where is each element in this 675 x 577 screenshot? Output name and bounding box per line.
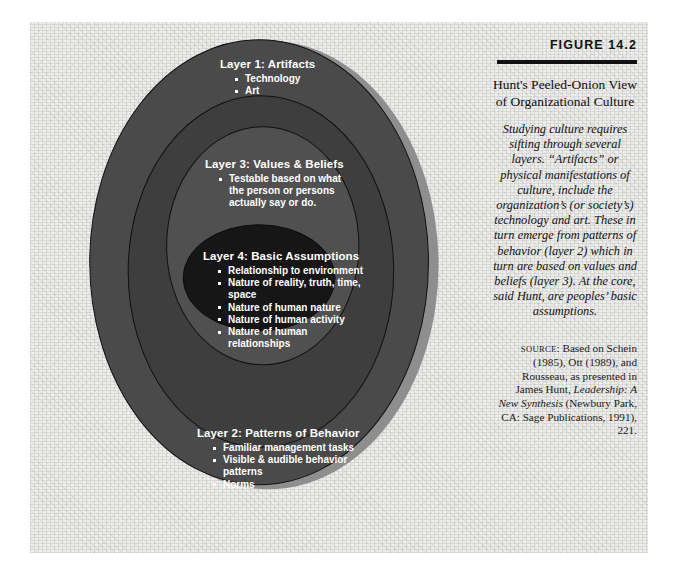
figure-title: Hunt's Peeled-Onion View of Organization… <box>493 77 637 110</box>
figure-source-label: SOURCE <box>521 344 557 354</box>
onion-label-layer2: Layer 2: Patterns of Behavior Familiar m… <box>210 427 360 491</box>
list-item: Visible & audible behavior patterns <box>210 454 358 478</box>
onion-label-layer4-items: Relationship to environment Nature of re… <box>215 265 370 350</box>
figure-caption-column: FIGURE 14.2 Hunt's Peeled-Onion View of … <box>493 38 637 438</box>
onion-label-layer3-title: Layer 3: Values & Beliefs <box>205 158 349 170</box>
onion-label-layer3: Layer 3: Values & Beliefs Testable based… <box>216 158 349 210</box>
figure-source: SOURCE: Based on Schein (1985), Ott (198… <box>493 342 637 438</box>
onion-label-layer4: Layer 4: Basic Assumptions Relationship … <box>215 250 370 350</box>
figure-page: Layer 1: Artifacts Technology Art Layer … <box>0 0 675 577</box>
list-item: Relationship to environment <box>215 265 370 277</box>
onion-label-layer2-title: Layer 2: Patterns of Behavior <box>197 427 360 439</box>
list-item: Nature of human nature <box>215 302 370 314</box>
list-item: Norms <box>210 479 360 491</box>
list-item: Technology <box>232 73 315 85</box>
onion-label-layer1-title: Layer 1: Artifacts <box>220 58 315 70</box>
onion-label-layer2-items: Familiar management tasks Visible & audi… <box>210 442 360 491</box>
list-item: Familiar management tasks <box>210 442 360 454</box>
onion-label-layer1-items: Technology Art <box>232 73 315 97</box>
list-item: Nature of human relationships <box>215 326 333 350</box>
onion-label-layer1: Layer 1: Artifacts Technology Art <box>232 58 315 97</box>
figure-rule-divider <box>497 60 637 64</box>
list-item: Nature of reality, truth, time, space <box>215 277 370 301</box>
list-item: Testable based on what the person or per… <box>216 173 349 210</box>
list-item: Art <box>232 85 315 97</box>
list-item: Nature of human activity <box>215 314 370 326</box>
figure-description: Studying culture requires sifting throug… <box>493 122 637 320</box>
onion-label-layer3-items: Testable based on what the person or per… <box>216 173 349 210</box>
onion-label-layer4-title: Layer 4: Basic Assumptions <box>203 250 370 262</box>
figure-number: FIGURE 14.2 <box>493 38 637 52</box>
